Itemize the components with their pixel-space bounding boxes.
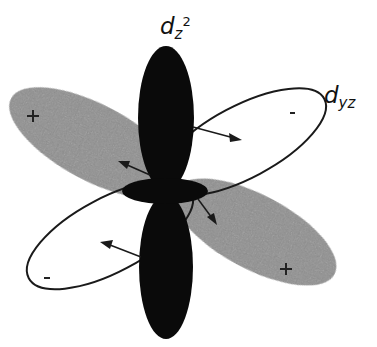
- dz2-lobe-bottom: [139, 195, 193, 339]
- orbital-diagram: dz2 dyz: [0, 0, 377, 347]
- orbital-svg: [0, 0, 377, 347]
- dz2-torus: [122, 178, 208, 204]
- minus-sign-upper-right-icon: [290, 112, 295, 114]
- label-dz2: dz2: [160, 13, 191, 39]
- label-dyz: dyz: [324, 82, 355, 108]
- label-dyz-main: d: [324, 82, 339, 108]
- dz2-lobe-top: [138, 46, 194, 190]
- arrow-lower-left-icon: [100, 240, 141, 257]
- label-dz2-sup: 2: [182, 14, 190, 29]
- minus-sign-lower-left-icon: [44, 277, 50, 279]
- label-dz2-main: d: [160, 13, 175, 39]
- arrow-upper-right-icon: [193, 127, 242, 142]
- label-dyz-sub: yz: [339, 94, 356, 112]
